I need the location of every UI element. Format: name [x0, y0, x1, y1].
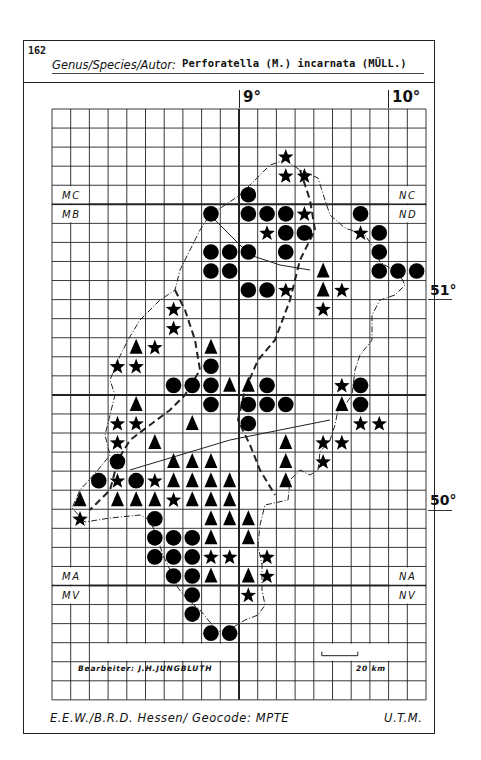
record-star-icon — [147, 473, 163, 488]
record-triangle-icon — [186, 472, 199, 487]
record-triangle-icon — [204, 510, 217, 525]
record-triangle-icon — [186, 491, 199, 506]
record-circle-icon — [203, 244, 219, 260]
record-triangle-icon — [279, 453, 292, 468]
record-circle-icon — [409, 263, 425, 279]
record-star-icon — [278, 149, 294, 164]
record-star-icon — [128, 359, 144, 374]
record-triangle-icon — [317, 282, 330, 297]
record-triangle-icon — [74, 491, 87, 506]
record-triangle-icon — [148, 434, 161, 449]
record-circle-icon — [147, 511, 163, 527]
record-triangle-icon — [167, 472, 180, 487]
record-circle-icon — [259, 378, 275, 394]
record-star-icon — [147, 340, 163, 355]
record-circle-icon — [278, 206, 294, 222]
record-star-icon — [128, 416, 144, 431]
zone-label-mc: MC — [62, 190, 81, 201]
record-circle-icon — [353, 397, 369, 413]
record-circle-icon — [203, 263, 219, 279]
record-star-icon — [334, 435, 350, 450]
record-star-icon — [334, 282, 350, 297]
record-star-icon — [241, 587, 257, 602]
record-star-icon — [259, 549, 275, 564]
record-circle-icon — [91, 473, 107, 489]
record-circle-icon — [222, 244, 238, 260]
record-triangle-icon — [279, 472, 292, 487]
district-boundary — [90, 290, 200, 510]
record-star-icon — [203, 549, 219, 564]
record-circle-icon — [184, 606, 200, 622]
record-circle-icon — [203, 359, 219, 375]
record-triangle-icon — [223, 472, 236, 487]
record-circle-icon — [203, 397, 219, 413]
author-credit: Bearbeiter: J.H.JUNGBLUTH — [78, 664, 212, 673]
record-circle-icon — [147, 530, 163, 546]
zone-label-mv: MV — [62, 590, 80, 601]
record-triangle-icon — [204, 491, 217, 506]
zone-label-nd: ND — [399, 209, 417, 220]
record-star-icon — [110, 435, 126, 450]
record-circle-icon — [166, 568, 182, 584]
record-circle-icon — [371, 225, 387, 241]
scale-label: 20 km — [356, 664, 386, 673]
record-circle-icon — [222, 263, 238, 279]
record-star-icon — [110, 416, 126, 431]
record-triangle-icon — [186, 453, 199, 468]
record-triangle-icon — [242, 377, 255, 392]
credit-box — [90, 644, 238, 661]
record-triangle-icon — [242, 529, 255, 544]
record-star-icon — [315, 454, 331, 469]
record-star-icon — [278, 282, 294, 297]
record-circle-icon — [184, 587, 200, 603]
scale-box — [315, 644, 407, 661]
zone-label-nv: NV — [399, 590, 416, 601]
zone-label-nc: NC — [399, 190, 416, 201]
record-circle-icon — [241, 244, 257, 260]
record-circle-icon — [241, 282, 257, 298]
record-circle-icon — [203, 378, 219, 394]
record-circle-icon — [241, 187, 257, 203]
record-triangle-icon — [223, 491, 236, 506]
record-circle-icon — [203, 625, 219, 641]
record-star-icon — [110, 359, 126, 374]
record-circle-icon — [184, 549, 200, 565]
record-triangle-icon — [335, 396, 348, 411]
record-triangle-icon — [204, 339, 217, 354]
record-star-icon — [259, 225, 275, 240]
record-star-icon — [166, 301, 182, 316]
record-star-icon — [353, 416, 369, 431]
record-triangle-icon — [148, 491, 161, 506]
record-triangle-icon — [204, 453, 217, 468]
record-circle-icon — [390, 263, 406, 279]
record-triangle-icon — [242, 567, 255, 582]
record-circle-icon — [241, 397, 257, 413]
record-circle-icon — [110, 454, 126, 470]
record-star-icon — [278, 168, 294, 183]
record-triangle-icon — [317, 263, 330, 278]
record-star-icon — [334, 378, 350, 393]
record-triangle-icon — [204, 529, 217, 544]
record-star-icon — [297, 206, 313, 221]
record-circle-icon — [222, 625, 238, 641]
record-circle-icon — [166, 530, 182, 546]
zone-label-ma: MA — [62, 571, 80, 582]
record-star-icon — [372, 416, 388, 431]
record-circle-icon — [166, 549, 182, 565]
footer-utm: U.T.M. — [384, 711, 423, 725]
record-triangle-icon — [279, 434, 292, 449]
record-circle-icon — [297, 225, 313, 241]
zone-label-mb: MB — [62, 209, 81, 220]
record-star-icon — [166, 492, 182, 507]
record-star-icon — [166, 321, 182, 336]
record-circle-icon — [278, 225, 294, 241]
record-star-icon — [222, 549, 238, 564]
record-star-icon — [353, 225, 369, 240]
record-circle-icon — [184, 378, 200, 394]
record-circle-icon — [203, 206, 219, 222]
record-star-icon — [315, 301, 331, 316]
record-triangle-icon — [204, 567, 217, 582]
record-circle-icon — [259, 397, 275, 413]
river — [130, 420, 330, 470]
record-circle-icon — [241, 416, 257, 432]
